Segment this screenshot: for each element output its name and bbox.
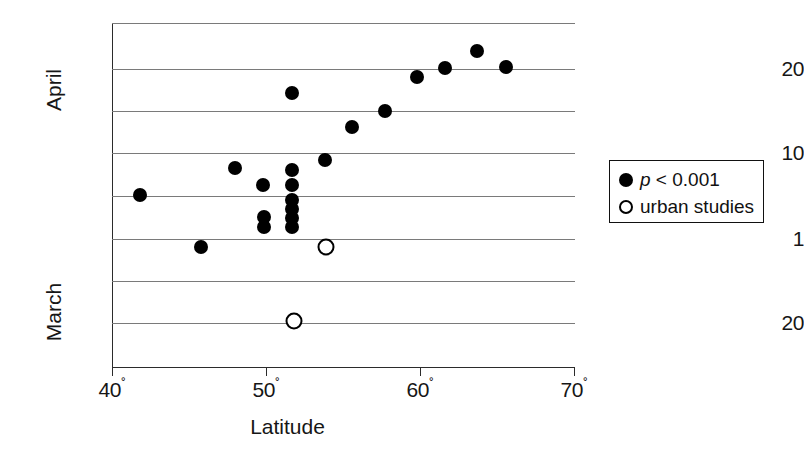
data-point-filled [285,163,299,177]
y-axis-group-label-march: March [42,252,66,372]
x-tick-label-60: 60˚ [407,378,434,402]
data-point-filled [228,161,242,175]
y-tick-label-march-20: 20 [712,311,804,335]
data-point-filled [318,153,332,167]
data-point-open [318,239,335,256]
x-axis-line [112,367,575,368]
y-tick-label-april-20: 20 [712,57,804,81]
data-point-filled [438,61,452,75]
legend-item-urban: urban studies [619,193,763,220]
legend-label-significance: p < 0.001 [640,169,720,191]
x-tick-value-50: 50 [253,378,276,401]
x-tick-value-40: 40 [99,378,122,401]
data-point-filled [345,120,359,134]
x-tick-label-50: 50˚ [253,378,280,402]
y-axis-group-label-april: April [42,30,66,150]
x-tick-value-60: 60 [407,378,430,401]
gridline [112,196,575,197]
x-tick-40 [112,367,113,376]
data-point-filled [285,86,299,100]
legend-box: p < 0.001 urban studies [609,160,764,223]
x-tick-50 [266,367,267,376]
y-axis-line [112,23,113,367]
open-circle-icon [619,200,633,214]
data-point-filled [133,188,147,202]
legend-p-value: < 0.001 [651,169,720,190]
filled-circle-icon [619,173,633,187]
degree-icon: ˚ [429,376,433,392]
x-tick-70 [574,367,575,376]
data-point-filled [285,220,299,234]
data-point-filled [378,104,392,118]
gridline [112,153,575,154]
data-point-filled [410,70,424,84]
degree-icon: ˚ [121,376,125,392]
data-point-filled [470,44,484,58]
legend-p-symbol: p [640,169,651,190]
scatter-chart-figure: 20 10 1 20 April March 40˚ 50˚ 60˚ 70˚ L… [0,0,804,459]
x-axis-title: Latitude [0,415,575,439]
data-point-open [285,313,302,330]
gridline [112,239,575,240]
x-tick-label-70: 70˚ [561,378,588,402]
y-tick-label-april-1: 1 [712,227,804,251]
gridline [112,111,575,112]
x-tick-value-70: 70 [561,378,584,401]
degree-icon: ˚ [275,376,279,392]
gridline [112,323,575,324]
data-point-filled [499,60,513,74]
data-point-filled [257,220,271,234]
legend-item-significance: p < 0.001 [619,166,763,193]
gridline [112,23,575,24]
legend-label-urban: urban studies [640,196,754,218]
data-point-filled [194,240,208,254]
data-point-filled [256,178,270,192]
x-tick-label-40: 40˚ [99,378,126,402]
plot-area [112,23,575,367]
degree-icon: ˚ [583,376,587,392]
data-point-filled [285,178,299,192]
gridline [112,281,575,282]
x-tick-60 [420,367,421,376]
